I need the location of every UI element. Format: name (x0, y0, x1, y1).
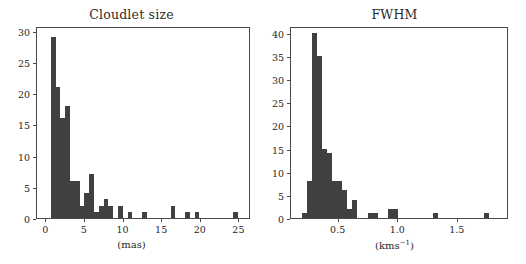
x-tick-mark (45, 219, 46, 222)
histogram-bar (118, 206, 123, 218)
histogram-bars-cloudlet-size (37, 28, 249, 218)
histogram-bar (373, 213, 378, 218)
panel-title-fwhm: FWHM (263, 7, 526, 22)
y-tick-label: 10 (0, 151, 30, 162)
y-tick-mark (287, 34, 290, 35)
x-tick-label: 0.5 (330, 224, 345, 235)
y-tick-mark (33, 219, 36, 220)
y-tick-label: 10 (263, 167, 284, 178)
y-tick-mark (287, 103, 290, 104)
x-tick-label: 1.0 (390, 224, 405, 235)
y-tick-label: 25 (263, 98, 284, 109)
histogram-bars-fwhm (291, 28, 507, 218)
y-tick-mark (33, 94, 36, 95)
plot-area-fwhm (290, 27, 508, 219)
x-tick-label: 25 (232, 224, 244, 235)
histogram-bar (195, 212, 200, 218)
y-tick-label: 0 (263, 214, 284, 225)
x-tick-label: 0 (42, 224, 48, 235)
x-tick-label: 1.5 (449, 224, 464, 235)
x-tick-mark (457, 219, 458, 222)
histogram-bar (233, 212, 238, 218)
y-tick-label: 30 (263, 75, 284, 86)
y-tick-mark (287, 126, 290, 127)
y-tick-label: 0 (0, 214, 30, 225)
histogram-bar (393, 209, 398, 218)
panel-fwhm: FWHM 0510152025303540 0.51.01.5 (kms−1) (263, 0, 526, 264)
histogram-bar (171, 206, 176, 218)
y-tick-mark (287, 173, 290, 174)
x-tick-mark (84, 219, 85, 222)
x-tick-mark (161, 219, 162, 222)
x-axis-label-exponent: −1 (400, 239, 410, 247)
y-tick-label: 20 (263, 121, 284, 132)
histogram-bar (185, 212, 190, 218)
x-tick-mark (338, 219, 339, 222)
histogram-bar (142, 212, 147, 218)
y-tick-label: 40 (263, 28, 284, 39)
y-tick-mark (33, 63, 36, 64)
y-tick-mark (287, 57, 290, 58)
panel-cloudlet-size: Cloudlet size 051015202530 0510152025 (m… (0, 0, 263, 264)
panel-title-cloudlet-size: Cloudlet size (0, 7, 263, 22)
y-tick-label: 5 (0, 182, 30, 193)
x-tick-mark (200, 219, 201, 222)
x-tick-mark (397, 219, 398, 222)
x-tick-label: 20 (194, 224, 206, 235)
x-tick-label: 5 (81, 224, 87, 235)
x-axis-label-fwhm: (kms−1) (263, 239, 526, 251)
histogram-bar (108, 206, 113, 218)
x-axis-label-cloudlet-size: (mas) (0, 239, 263, 250)
y-tick-label: 25 (0, 58, 30, 69)
x-tick-mark (238, 219, 239, 222)
y-tick-mark (33, 32, 36, 33)
y-tick-label: 5 (263, 190, 284, 201)
y-tick-mark (287, 150, 290, 151)
y-tick-mark (287, 196, 290, 197)
y-tick-label: 15 (263, 144, 284, 155)
y-tick-mark (33, 125, 36, 126)
plot-area-cloudlet-size (36, 27, 250, 219)
x-tick-label: 10 (116, 224, 128, 235)
histogram-bar (484, 213, 489, 218)
x-tick-label: 15 (155, 224, 167, 235)
y-tick-mark (287, 80, 290, 81)
x-tick-mark (123, 219, 124, 222)
y-tick-mark (287, 219, 290, 220)
histogram-bar (352, 200, 357, 219)
y-tick-label: 20 (0, 89, 30, 100)
y-tick-mark (33, 157, 36, 158)
histogram-bar (128, 212, 133, 218)
y-tick-label: 30 (0, 26, 30, 37)
y-tick-label: 35 (263, 52, 284, 63)
y-tick-label: 15 (0, 120, 30, 131)
y-tick-mark (33, 188, 36, 189)
histogram-bar (433, 213, 438, 218)
figure-container: Cloudlet size 051015202530 0510152025 (m… (0, 0, 526, 264)
